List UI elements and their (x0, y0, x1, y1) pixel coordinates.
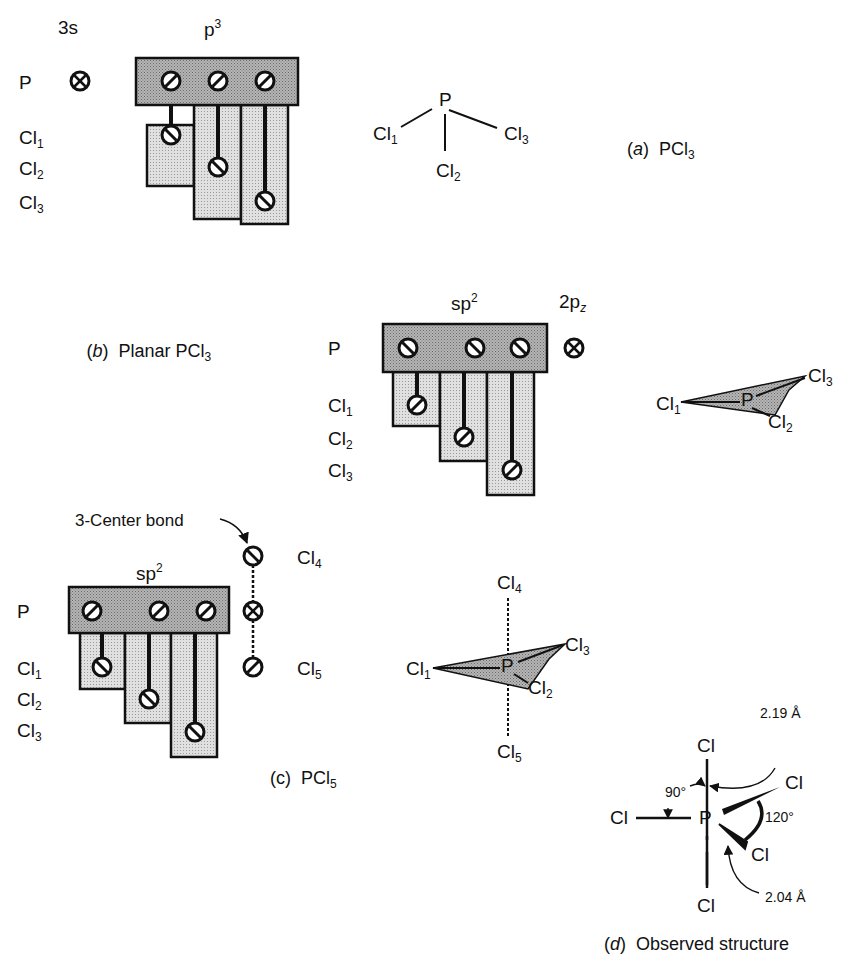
panel-a-orbital-diagram (71, 58, 298, 224)
panel-c-atom-cl4: Cl4 (497, 573, 522, 595)
axial-bond-length-label: 2.19 Å (760, 705, 800, 721)
panel-d-atom-cl-lower-right: Cl (751, 845, 769, 864)
panel-b-sp2-header: sp2 (451, 292, 478, 313)
diagram-canvas (0, 0, 857, 962)
panel-c-caption: (c) PCl5 (270, 768, 337, 791)
panel-c-row-label-cl1: Cl1 (17, 659, 42, 681)
panel-a-row-label-cl1: Cl1 (19, 128, 44, 150)
panel-b-atom-cl1: Cl1 (656, 394, 681, 416)
panel-d-caption: (d) Observed structure (604, 934, 789, 955)
panel-b-row-label-cl2: Cl2 (328, 429, 353, 451)
panel-a-caption: (a) PCl3 (627, 139, 695, 162)
axial-angle-label: 90° (665, 784, 686, 800)
panel-b-row-label-cl1: Cl1 (328, 396, 353, 418)
p-orbital-icon (162, 72, 180, 90)
cl2-orbital-icon (209, 158, 227, 176)
panel-a-p3-header: p3 (204, 18, 221, 39)
panel-d-atom-cl-bottom: Cl (697, 896, 715, 915)
panel-c-atom-p: P (501, 656, 514, 675)
cl1-orbital-icon (162, 126, 180, 144)
panel-b-2pz-header: 2pz (559, 292, 586, 314)
equatorial-angle-label: 120° (765, 809, 794, 825)
p-2pz-orbital-icon (565, 339, 583, 357)
three-center-bond-label: 3-Center bond (75, 511, 184, 531)
panel-c-row-label-cl2: Cl2 (17, 690, 42, 712)
panel-a-row-label-cl2: Cl2 (19, 159, 44, 181)
panel-a-row-label-cl3: Cl3 (19, 193, 44, 215)
panel-c-atom-cl1: Cl1 (406, 659, 431, 681)
panel-d-atom-cl-top: Cl (697, 736, 715, 755)
panel-c-axial-label-cl4: Cl4 (297, 548, 322, 570)
panel-c-orbital-diagram (69, 519, 262, 757)
panel-c-axial-label-cl5: Cl5 (297, 659, 322, 681)
p-orbital-icon (256, 72, 274, 90)
panel-a-row-label-p: P (19, 73, 32, 92)
three-center-arrow-icon (220, 519, 247, 543)
panel-c-sp2-header: sp2 (136, 562, 163, 583)
p-3s-orbital-icon (71, 72, 89, 90)
panel-b-atom-cl3: Cl3 (808, 366, 833, 388)
panel-c-atom-cl2: Cl2 (528, 678, 553, 700)
panel-d-atom-cl-upper-right: Cl (785, 773, 803, 792)
panel-a-atom-cl2: Cl2 (436, 161, 461, 183)
panel-a-3s-header: 3s (58, 18, 78, 37)
panel-b-row-label-cl3: Cl3 (328, 461, 353, 483)
panel-b-row-label-p: P (328, 339, 341, 358)
equatorial-bond-length-label: 2.04 Å (765, 889, 805, 905)
panel-c-row-label-p: P (17, 602, 30, 621)
cl5-orbital-icon (244, 658, 262, 676)
p-pz-orbital-icon (244, 602, 262, 620)
panel-d-atom-p: P (699, 808, 712, 827)
panel-c-row-label-cl3: Cl3 (17, 721, 42, 743)
panel-b-atom-cl2: Cl2 (768, 412, 793, 434)
cl3-orbital-icon (256, 192, 274, 210)
panel-a-structure (401, 109, 497, 151)
panel-c-atom-cl3: Cl3 (565, 635, 590, 657)
panel-d-atom-cl-left: Cl (610, 808, 628, 827)
cl4-orbital-icon (244, 547, 262, 565)
p-orbital-icon (209, 72, 227, 90)
panel-a-atom-cl3: Cl3 (504, 124, 529, 146)
panel-b-caption: (b) Planar PCl3 (87, 341, 212, 364)
panel-b-atom-p: P (741, 390, 754, 409)
panel-b-orbital-diagram (383, 324, 583, 495)
panel-c-structure (433, 598, 565, 736)
panel-a-atom-cl1: Cl1 (373, 124, 398, 146)
panel-a-atom-p: P (439, 90, 452, 109)
panel-c-atom-cl5: Cl5 (497, 742, 522, 764)
